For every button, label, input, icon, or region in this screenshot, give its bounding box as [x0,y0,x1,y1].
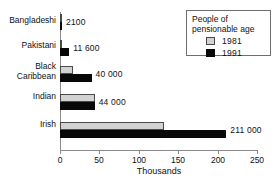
bar-black-caribbean-1991 [60,74,92,82]
bar-irish-1981 [60,122,164,130]
x-tick-label-0: 0 [58,155,63,165]
x-tick-200 [218,150,219,154]
bar-value-pakistani: 11 600 [73,43,100,53]
x-tick-250 [257,150,258,154]
x-tick-label-150: 150 [171,155,185,165]
x-tick-50 [99,150,100,154]
x-tick-label-200: 200 [211,155,225,165]
legend-label-1981: 1981 [222,36,242,46]
bar-irish-1991 [60,130,226,138]
x-axis-line [60,150,258,151]
x-axis-title: Thousands [0,166,280,176]
bar-chart: Bangladeshi Pakistani Black Caribbean In… [0,0,280,184]
bar-indian-1991 [60,102,95,110]
legend-title: People of pensionable age [192,14,270,34]
bar-pakistani-1981 [60,40,62,48]
x-tick-0 [60,150,61,154]
bar-pakistani-1991 [60,48,69,56]
bar-value-black-caribbean: 40 000 [96,69,123,79]
x-tick-100 [139,150,140,154]
bar-bangladeshi-1981 [60,14,62,22]
x-axis-title-text: Thousands [137,166,182,176]
category-label-pakistani: Pakistani [22,41,57,51]
legend-entry-1991: 1991 [192,48,270,58]
category-label-indian: Indian [33,92,56,102]
bar-indian-1981 [60,94,95,102]
x-tick-label-100: 100 [132,155,146,165]
category-label-black-caribbean: Black Caribbean [17,62,56,81]
legend-entry-1981: 1981 [192,36,270,46]
legend: People of pensionable age 1981 1991 [186,10,271,56]
light-grey-swatch-icon [206,37,215,45]
x-tick-label-250: 250 [250,155,264,165]
category-label-irish: Irish [40,120,56,130]
clipped-caption-strip [0,179,280,184]
bar-bangladeshi-1991 [60,22,62,30]
x-tick-label-50: 50 [94,155,103,165]
legend-label-1991: 1991 [222,48,242,58]
x-tick-150 [178,150,179,154]
bar-value-irish: 211 000 [230,125,262,135]
bar-value-indian: 44 000 [99,97,126,107]
bar-value-bangladeshi: 2100 [66,17,86,27]
black-swatch-icon [206,49,215,57]
category-label-bangladeshi: Bangladeshi [9,16,56,26]
bar-black-caribbean-1981 [60,66,73,74]
